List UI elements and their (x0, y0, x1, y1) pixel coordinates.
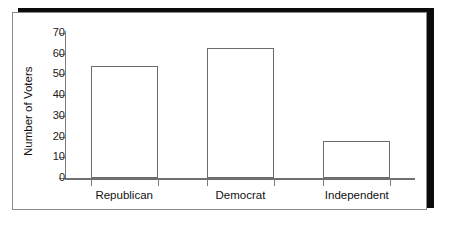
y-tick-label: 40 (31, 89, 65, 100)
y-tick-label-wrap: 40 (13, 89, 65, 100)
y-tick-label: 20 (31, 131, 65, 142)
x-tick-mark (91, 179, 92, 186)
figure-frame: Number of Voters 010203040506070 Republi… (12, 12, 427, 210)
plot-area: Number of Voters 010203040506070 Republi… (13, 13, 428, 211)
y-tick-label-wrap: 60 (13, 48, 65, 59)
y-axis-line (65, 31, 66, 179)
y-tick-label: 50 (31, 68, 65, 79)
x-axis-line (65, 178, 415, 180)
y-tick-label-wrap: 30 (13, 110, 65, 121)
y-tick-label: 30 (31, 110, 65, 121)
x-tick-mark (390, 179, 391, 186)
x-tick-mark (323, 179, 324, 186)
x-tick-mark (158, 179, 159, 186)
x-tick-mark (207, 179, 208, 186)
category-label-democrat: Democrat (182, 189, 298, 202)
bar-independent (323, 141, 390, 178)
category-label-independent: Independent (299, 189, 415, 202)
y-tick-label-wrap: 0 (13, 172, 65, 183)
figure-container: Number of Voters 010203040506070 Republi… (0, 0, 458, 230)
category-label-republican: Republican (66, 189, 182, 202)
bar-republican (91, 66, 158, 178)
y-tick-label-wrap: 70 (13, 27, 65, 38)
y-tick-label-wrap: 20 (13, 131, 65, 142)
x-tick-mark (274, 179, 275, 186)
y-tick-label: 10 (31, 151, 65, 162)
y-tick-label: 60 (31, 48, 65, 59)
y-tick-label: 0 (31, 172, 65, 183)
y-tick-label: 70 (31, 27, 65, 38)
y-tick-label-wrap: 50 (13, 68, 65, 79)
bar-democrat (207, 48, 274, 179)
y-tick-label-wrap: 10 (13, 151, 65, 162)
